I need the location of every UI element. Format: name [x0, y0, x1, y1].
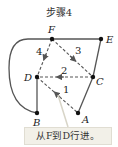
node-D: [35, 75, 39, 79]
label-E: E: [105, 34, 114, 45]
label-F: F: [47, 24, 56, 35]
node-F: [50, 37, 54, 41]
edge-label-2: 2: [61, 65, 67, 76]
label-D: D: [23, 72, 32, 83]
node-A: [76, 111, 80, 115]
node-E: [99, 37, 103, 41]
callout-pointer: [58, 95, 68, 127]
label-A: A: [81, 114, 89, 125]
edge-label-1: 1: [63, 84, 69, 95]
edge-label-4: 4: [36, 46, 42, 57]
graph-diagram: F E D C A B 4 3 2 1: [0, 0, 118, 147]
node-B: [35, 111, 39, 115]
label-C: C: [96, 76, 104, 87]
node-C: [91, 75, 95, 79]
edge-C-A: [78, 77, 93, 113]
edge-E-C: [93, 39, 101, 77]
edge-label-3: 3: [75, 45, 81, 56]
callout-box: 从F到D行进。: [24, 127, 112, 145]
